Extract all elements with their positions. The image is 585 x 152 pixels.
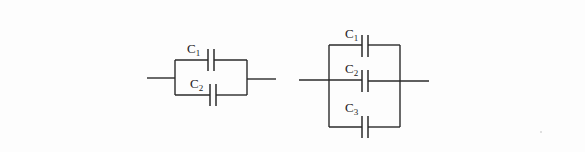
capacitor-c3: C3 xyxy=(329,100,400,138)
scan-speck xyxy=(540,131,542,133)
capacitor-c1: C1 xyxy=(329,26,400,57)
capacitor-c1: C1 xyxy=(175,41,247,71)
capacitor-label: C2 xyxy=(190,76,203,93)
circuit-diagram: C1 C2 C1 xyxy=(0,0,585,152)
diagram-canvas: C1 C2 C1 xyxy=(0,0,585,152)
circuit-three-capacitors: C1 C2 C3 xyxy=(299,26,429,138)
capacitor-label: C2 xyxy=(345,61,358,78)
capacitor-label: C1 xyxy=(187,41,200,58)
capacitor-label: C3 xyxy=(345,100,359,117)
capacitor-c2: C2 xyxy=(345,61,368,92)
capacitor-c2: C2 xyxy=(175,76,247,106)
capacitor-label: C1 xyxy=(345,26,358,43)
circuit-two-capacitors: C1 C2 xyxy=(147,41,276,106)
